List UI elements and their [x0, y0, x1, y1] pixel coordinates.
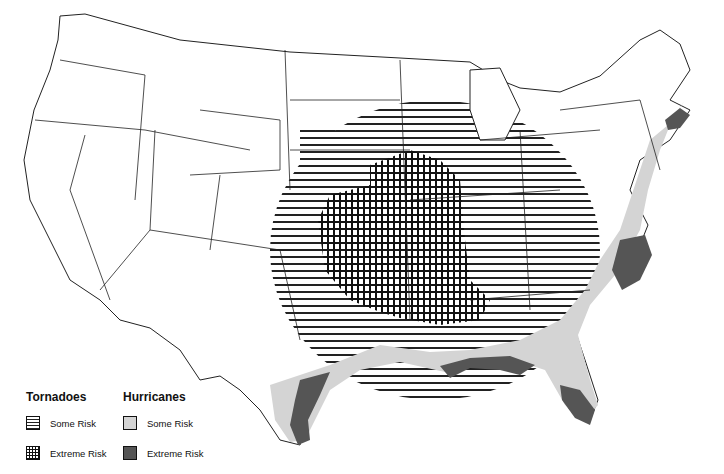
legend-item-hurricane-some-risk: Some Risk — [123, 412, 203, 434]
dark-gray-swatch-icon — [123, 446, 137, 460]
legend-tornadoes-title: Tornadoes — [26, 390, 106, 404]
light-gray-swatch-icon — [123, 416, 137, 430]
horizontal-lines-swatch-icon — [26, 416, 40, 430]
us-risk-map — [0, 0, 724, 474]
legend-hurricanes: Hurricanes Some Risk Extreme Risk — [123, 390, 203, 472]
legend-tornadoes: Tornadoes Some Risk Extreme Risk — [26, 390, 106, 472]
grid-swatch-icon — [26, 446, 40, 460]
legend-hurricanes-title: Hurricanes — [123, 390, 203, 404]
legend-item-hurricane-extreme-risk: Extreme Risk — [123, 442, 203, 464]
legend-item-tornado-some-risk: Some Risk — [26, 412, 106, 434]
legend-item-tornado-extreme-risk: Extreme Risk — [26, 442, 106, 464]
